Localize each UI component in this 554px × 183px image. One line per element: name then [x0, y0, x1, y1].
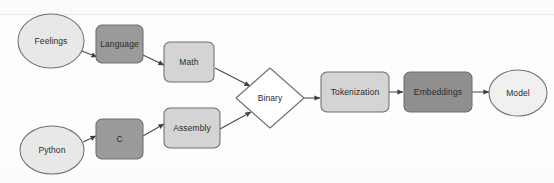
- node-assembly[interactable]: [164, 108, 220, 148]
- edge-python-c: [83, 136, 96, 142]
- edge-c-assembly: [143, 124, 164, 136]
- node-math[interactable]: [164, 42, 214, 82]
- edge-math-binary: [215, 68, 250, 86]
- node-feelings[interactable]: [18, 14, 84, 68]
- node-language[interactable]: [96, 25, 143, 63]
- node-tokenization[interactable]: [321, 72, 389, 112]
- node-binary[interactable]: [236, 68, 304, 128]
- edge-assembly-binary: [220, 112, 251, 129]
- node-c[interactable]: [96, 119, 143, 159]
- node-model[interactable]: [489, 70, 547, 116]
- node-embeddings[interactable]: [404, 72, 472, 112]
- edge-feelings-language: [82, 51, 97, 57]
- node-layer: [18, 14, 547, 174]
- edge-language-math: [143, 55, 164, 65]
- node-python[interactable]: [20, 126, 84, 174]
- flowchart-graphic: [0, 0, 554, 183]
- diagram-canvas: Feelings Language Math Python C Assembly…: [0, 0, 554, 183]
